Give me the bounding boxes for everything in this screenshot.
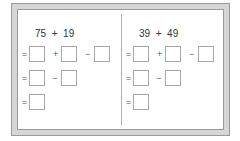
answer-box[interactable]	[133, 94, 149, 110]
answer-box[interactable]	[165, 46, 181, 62]
operator: −	[189, 49, 194, 59]
equals-sign: =	[126, 49, 131, 59]
step-row-3: =	[18, 94, 121, 112]
operator: −	[156, 73, 161, 83]
answer-box[interactable]	[61, 46, 77, 62]
step-row-1: = + −	[18, 46, 121, 64]
equals-sign: =	[22, 73, 27, 83]
problem-expression: 75 + 19	[35, 28, 74, 39]
answer-box[interactable]	[133, 46, 149, 62]
answer-box[interactable]	[94, 46, 110, 62]
operator: +	[52, 28, 58, 39]
worksheet-area: 75 + 19 = + − = − = 39 + 49	[17, 9, 224, 130]
equals-sign: =	[22, 97, 27, 107]
problem-expression: 39 + 49	[139, 28, 178, 39]
answer-box[interactable]	[29, 94, 45, 110]
step-row-2: = −	[122, 70, 225, 88]
equals-sign: =	[126, 73, 131, 83]
answer-box[interactable]	[133, 70, 149, 86]
equals-sign: =	[22, 49, 27, 59]
operator: +	[53, 49, 58, 59]
operator: +	[157, 49, 162, 59]
operator: −	[85, 49, 90, 59]
operand-b: 49	[167, 28, 178, 39]
step-row-2: = −	[18, 70, 121, 88]
operator: −	[52, 73, 57, 83]
answer-box[interactable]	[61, 70, 77, 86]
operand-b: 19	[63, 28, 74, 39]
problem-panel-2: 39 + 49 = + − = − =	[122, 10, 225, 129]
answer-box[interactable]	[165, 70, 181, 86]
equals-sign: =	[126, 97, 131, 107]
step-row-3: =	[122, 94, 225, 112]
answer-box[interactable]	[29, 46, 45, 62]
operand-a: 39	[139, 28, 150, 39]
operator: +	[156, 28, 162, 39]
answer-box[interactable]	[29, 70, 45, 86]
problem-panel-1: 75 + 19 = + − = − =	[18, 10, 121, 129]
answer-box[interactable]	[198, 46, 214, 62]
operand-a: 75	[35, 28, 46, 39]
worksheet-frame: 75 + 19 = + − = − = 39 + 49	[11, 3, 230, 136]
step-row-1: = + −	[122, 46, 225, 64]
